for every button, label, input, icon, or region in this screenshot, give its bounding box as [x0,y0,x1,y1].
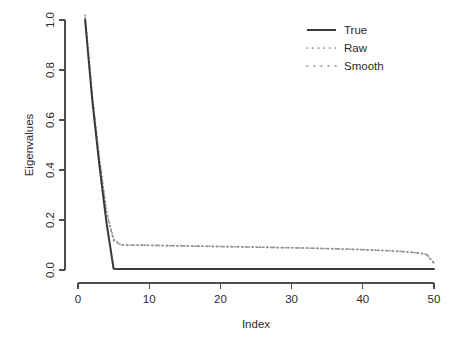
x-tick-label: 20 [214,293,227,305]
chart-canvas: 0.00.20.40.60.81.0 01020304050 Index Eig… [0,0,473,345]
y-tick-label: 0.4 [44,161,56,178]
y-tick-label: 1.0 [44,12,56,28]
x-axis: 01020304050 [75,283,441,305]
y-axis-title: Eigenvalues [23,113,35,176]
y-tick-label: 0.6 [44,112,56,128]
legend-label-smooth: Smooth [344,60,384,72]
y-tick-group: 0.00.20.40.60.81.0 [44,12,65,278]
x-tick-label: 0 [75,293,81,305]
legend: True Raw Smooth [307,24,384,72]
series-line-true [85,20,434,269]
series-line-smooth [85,18,434,264]
scree-plot-figure: 0.00.20.40.60.81.0 01020304050 Index Eig… [0,0,473,345]
plot-area [85,15,434,269]
y-axis: 0.00.20.40.60.81.0 [44,12,65,278]
x-tick-label: 10 [143,293,156,305]
x-axis-title: Index [242,318,270,330]
x-tick-group: 01020304050 [75,283,441,305]
x-tick-label: 30 [285,293,298,305]
legend-label-true: True [344,24,367,36]
y-tick-label: 0.2 [44,212,56,228]
x-tick-label: 40 [356,293,369,305]
series-line-raw [85,15,434,263]
legend-label-raw: Raw [344,42,368,54]
x-tick-label: 50 [428,293,441,305]
y-tick-label: 0.8 [44,62,56,78]
y-tick-label: 0.0 [44,262,56,278]
